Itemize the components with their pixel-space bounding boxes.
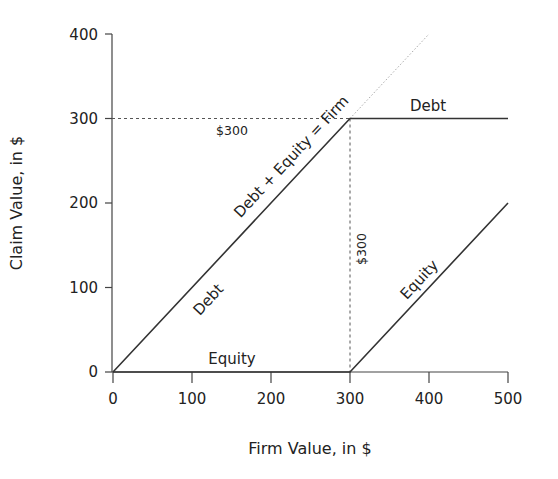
- equity-flat-annotation: Equity: [208, 350, 256, 368]
- x-tick-label: 300: [336, 390, 365, 408]
- equity-line: [113, 203, 508, 372]
- debt-diagonal-annotation: Debt: [189, 280, 227, 319]
- sum-annotation: Debt + Equity = Firm: [230, 92, 352, 221]
- h300-annotation: $300: [216, 123, 248, 138]
- y-tick-label: 100: [69, 279, 98, 297]
- x-tick-label: 100: [178, 390, 207, 408]
- v300-annotation: $300: [354, 233, 369, 265]
- debt-line: [113, 119, 508, 373]
- x-axis-label: Firm Value, in $: [248, 439, 371, 458]
- x-tick-label: 0: [108, 390, 118, 408]
- debt-flat-annotation: Debt: [410, 97, 446, 115]
- y-tick-label: 400: [69, 26, 98, 44]
- x-tick-label: 400: [415, 390, 444, 408]
- x-tick-label: 500: [494, 390, 523, 408]
- y-axis-label: Claim Value, in $: [7, 136, 26, 271]
- y-tick-label: 300: [69, 110, 98, 128]
- x-tick-label: 200: [257, 390, 286, 408]
- y-tick-label: 0: [88, 363, 98, 381]
- y-ticks: [105, 34, 112, 372]
- y-tick-label: 200: [69, 194, 98, 212]
- chart: 0 100 200 300 400 0 100 200 300 400 500 …: [0, 0, 558, 479]
- x-ticks: [113, 372, 508, 383]
